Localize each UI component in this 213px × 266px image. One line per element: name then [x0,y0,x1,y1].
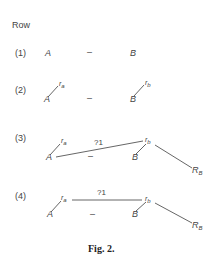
link-label: ?1 [94,139,103,147]
row-label-3: (3) [15,134,26,143]
figure-caption: Fig. 2. [88,244,114,254]
node-a: A [46,153,52,162]
dash: – [87,48,92,57]
row-label-1: (1) [15,49,26,58]
connector-lines [0,0,213,266]
node-a: A [47,210,53,219]
dash: – [90,210,95,219]
dash: – [87,94,92,103]
node-b: B [132,210,138,219]
node-ra: ra [61,193,67,203]
node-ra: ra [59,79,65,89]
node-rb: rb [145,135,151,145]
row-label-2: (2) [15,86,26,95]
node-b: B [130,49,136,58]
node-a: A [44,95,50,104]
link-label: ?1 [97,189,106,197]
node-ra: ra [61,136,67,146]
node-rb: rb [145,78,151,88]
node-b: B [132,153,138,162]
node-rb-end: RB [192,166,203,176]
row-label-4: (4) [15,192,26,201]
node-a: A [45,49,51,58]
figure-canvas: Row (1) A – B (2) A ra – B rb (3) A ra ?… [0,0,213,266]
node-rb-end: RB [192,221,203,231]
node-rb: rb [145,194,151,204]
node-b: B [130,95,136,104]
row-header: Row [12,21,30,30]
dash: – [88,152,93,161]
